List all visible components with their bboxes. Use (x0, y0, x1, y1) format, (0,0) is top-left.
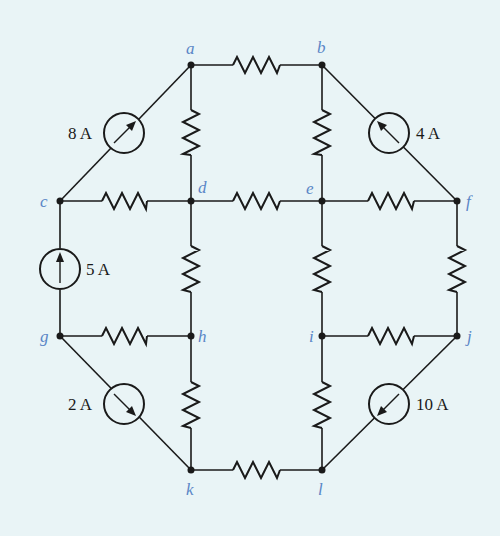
node-label-d: d (198, 178, 207, 197)
current-source-8a: 8 A (68, 113, 144, 153)
source-label-2a: 2 A (68, 395, 93, 414)
node-h (188, 333, 195, 340)
resistor-i-l (314, 382, 330, 428)
resistor-c-d (102, 193, 147, 209)
source-label-8a: 8 A (68, 124, 93, 143)
source-label-4a: 4 A (416, 124, 441, 143)
node-label-f: f (466, 192, 473, 211)
node-label-i: i (309, 327, 314, 346)
resistor-d-h (183, 246, 199, 292)
node-b (319, 62, 326, 69)
circuit-diagram: 8 A 4 A 5 A 2 A 10 A (0, 0, 500, 536)
resistor-e-f (368, 193, 414, 209)
resistor-f-j (449, 246, 465, 292)
resistor-e-i (314, 246, 330, 292)
node-k (188, 467, 195, 474)
node-e (319, 198, 326, 205)
current-source-10a: 10 A (369, 384, 449, 424)
node-label-c: c (40, 192, 48, 211)
current-source-5a: 5 A (40, 249, 111, 289)
current-source-2a: 2 A (68, 384, 144, 424)
resistor-a-b (233, 57, 280, 73)
node-l (319, 467, 326, 474)
current-source-4a: 4 A (369, 113, 441, 153)
resistor-g-h (102, 328, 147, 344)
node-label-h: h (198, 327, 207, 346)
node-label-b: b (317, 38, 326, 57)
resistor-b-e (314, 110, 330, 155)
resistor-k-l (233, 462, 280, 478)
node-label-g: g (40, 327, 49, 346)
resistor-i-j (368, 328, 414, 344)
node-label-j: j (465, 327, 472, 346)
resistor-d-e (233, 193, 280, 209)
node-j (454, 333, 461, 340)
node-f (454, 198, 461, 205)
resistor-h-k (183, 382, 199, 428)
resistor-a-d (183, 110, 199, 155)
node-label-l: l (318, 480, 323, 499)
node-d (188, 198, 195, 205)
source-label-5a: 5 A (86, 260, 111, 279)
node-g (57, 333, 64, 340)
source-label-10a: 10 A (416, 395, 449, 414)
node-label-e: e (306, 179, 314, 198)
node-label-k: k (186, 480, 194, 499)
resistors (102, 57, 465, 478)
node-a (188, 62, 195, 69)
node-c (57, 198, 64, 205)
node-label-a: a (186, 39, 195, 58)
circuit-canvas: 8 A 4 A 5 A 2 A 10 A (0, 0, 500, 536)
node-i (319, 333, 326, 340)
